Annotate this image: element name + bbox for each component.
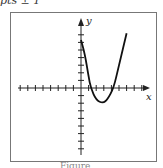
y-axis-arrow-icon bbox=[78, 18, 84, 26]
figure-caption: Figure bbox=[60, 161, 90, 168]
chart-svg: y x bbox=[0, 0, 163, 168]
y-axis-label: y bbox=[85, 15, 92, 26]
parabola-curve bbox=[81, 33, 127, 102]
x-axis-label: x bbox=[146, 91, 152, 102]
